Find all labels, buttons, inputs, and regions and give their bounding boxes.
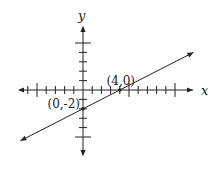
y-axis-arrow-down-icon — [80, 150, 85, 156]
y-axis-label: y — [77, 8, 86, 23]
point-label: (4,0) — [107, 74, 135, 88]
x-axis-arrow-left-icon — [18, 87, 24, 92]
data-point — [118, 88, 122, 92]
x-axis-arrow-right-icon — [187, 87, 193, 92]
point-label: (0,-2) — [47, 97, 80, 111]
series-line — [20, 52, 193, 140]
data-point — [81, 107, 85, 111]
y-axis-arrow-up-icon — [80, 26, 85, 32]
x-axis-label: x — [201, 83, 209, 98]
coordinate-plane: (4,0)(0,-2) x y — [0, 0, 213, 169]
